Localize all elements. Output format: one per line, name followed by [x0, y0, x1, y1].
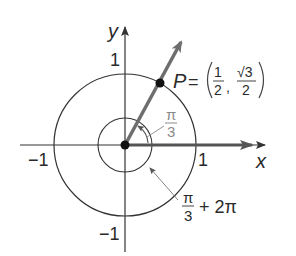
unit-circle-diagram: y x 1 −1 1 −1 P = 1 2 , √3 2 π 3 π 3 + 2…: [0, 0, 296, 256]
point-p-x-denominator: 2: [214, 82, 222, 98]
origin-point: [121, 141, 130, 150]
tick-y-pos: 1: [110, 50, 120, 70]
point-p-x-numerator: 1: [214, 64, 222, 80]
point-p-equals: =: [188, 72, 199, 92]
point-p: [156, 79, 165, 88]
angle-label-denominator: 3: [167, 123, 175, 140]
tick-y-neg: −1: [99, 224, 120, 244]
point-p-comma: ,: [226, 79, 230, 95]
right-paren: [259, 62, 264, 98]
coterminal-label-numerator: π: [183, 189, 193, 206]
point-p-name: P: [173, 70, 187, 92]
angle-label-numerator: π: [166, 106, 176, 123]
tick-x-pos: 1: [198, 150, 208, 170]
angle-leader-pi-over-3-plus-2pi: [150, 168, 178, 200]
tick-x-neg: −1: [28, 150, 49, 170]
x-axis-label: x: [255, 150, 267, 172]
angle-leader-pi-over-3: [147, 126, 164, 137]
point-p-y-numerator: √3: [237, 64, 253, 80]
y-axis-label: y: [106, 20, 119, 42]
coterminal-label-suffix: + 2π: [199, 197, 237, 217]
coterminal-label-denominator: 3: [184, 207, 192, 224]
left-paren: [208, 62, 213, 98]
point-p-y-denominator: 2: [242, 82, 250, 98]
